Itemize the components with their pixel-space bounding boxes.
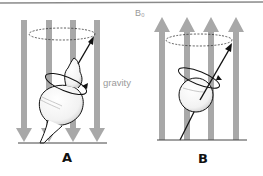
rotation-direction-icon	[216, 75, 222, 80]
field-arrow-down-icon	[16, 20, 32, 142]
panel-b	[154, 17, 247, 140]
nucleus-sphere-icon	[176, 64, 222, 112]
precession-diagram	[0, 0, 263, 176]
spin-vector-arrow-icon	[200, 43, 232, 100]
precession-path-ellipse	[29, 28, 95, 40]
panel-a	[16, 20, 107, 143]
precession-path-ellipse	[166, 34, 232, 46]
panel-a-label: A	[62, 150, 72, 165]
field-arrow-up-icon	[154, 17, 170, 140]
gravity-label: gravity	[103, 77, 131, 88]
spin-axis-arrow-icon	[78, 36, 94, 64]
top-border	[0, 2, 263, 3]
panel-b-label: B	[198, 151, 208, 166]
b0-field-label: B₀	[135, 8, 145, 18]
field-arrow-up-icon	[228, 17, 244, 140]
